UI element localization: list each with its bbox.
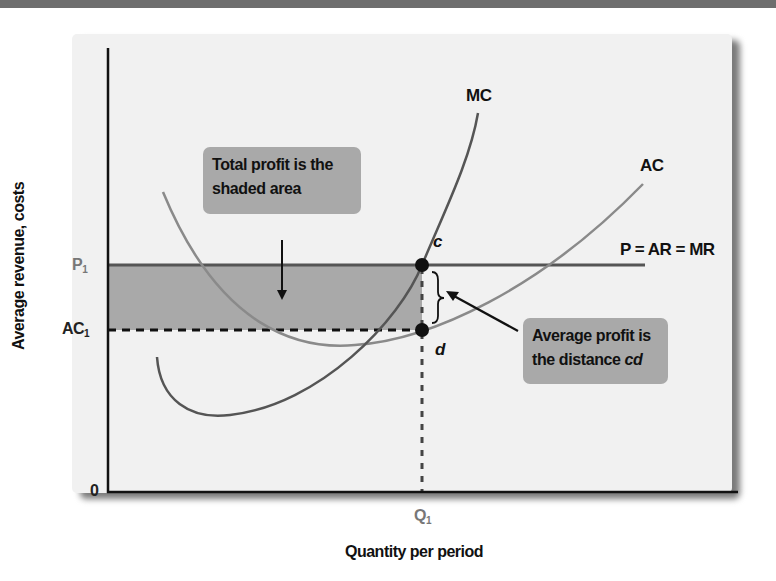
average-profit-arrowhead-icon	[446, 291, 459, 301]
point-d	[415, 323, 429, 337]
average-profit-callout-line2-prefix: the distance	[532, 351, 625, 368]
point-d-label: d	[435, 340, 445, 360]
total-profit-callout-line1: Total profit is the	[212, 153, 352, 177]
total-profit-shaded-area	[108, 265, 422, 330]
x-tick-q1-subscript: 1	[426, 515, 431, 526]
average-profit-callout-cd: cd	[625, 351, 643, 368]
total-profit-callout: Total profit is the shaded area	[203, 147, 361, 214]
origin-label: 0	[90, 482, 98, 500]
x-tick-q1-main: Q	[414, 507, 426, 524]
y-tick-ac1-subscript: 1	[84, 328, 89, 339]
y-tick-ac1: AC1	[62, 320, 89, 339]
point-c	[415, 258, 429, 272]
total-profit-callout-line2: shaded area	[212, 177, 352, 201]
y-tick-p1-main: P	[72, 256, 82, 273]
average-profit-callout: Average profit is the distance cd	[523, 318, 668, 384]
x-axis-title: Quantity per period	[345, 543, 483, 561]
mc-curve-label: MC	[466, 86, 491, 106]
y-tick-p1: P1	[72, 256, 87, 275]
distance-brace	[432, 272, 444, 323]
y-tick-p1-subscript: 1	[82, 264, 87, 275]
ac-curve-label: AC	[640, 156, 664, 176]
average-profit-callout-line1: Average profit is	[532, 324, 659, 348]
x-tick-q1: Q1	[414, 507, 431, 526]
y-tick-ac1-main: AC	[62, 320, 84, 337]
point-c-label: c	[433, 232, 442, 252]
average-profit-callout-line2: the distance cd	[532, 348, 659, 372]
y-axis-title: Average revenue, costs	[10, 182, 28, 350]
price-line-label: P = AR = MR	[620, 240, 715, 260]
diagram-canvas	[0, 0, 776, 581]
